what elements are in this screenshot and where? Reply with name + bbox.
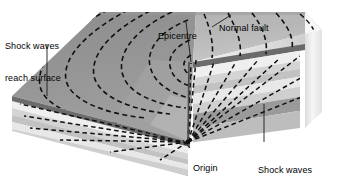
label-epicentre: Epicentre xyxy=(158,10,197,63)
label-line: Epicentre xyxy=(158,31,197,42)
label-line: Normal fault xyxy=(219,23,269,34)
label-line: Shock waves xyxy=(258,165,321,176)
label-line: Origin xyxy=(193,163,226,174)
label-normal-fault: Normal fault xyxy=(219,2,269,55)
block-right-side-face xyxy=(305,30,322,128)
fault-plane-line xyxy=(188,62,189,143)
back-edge-highlight xyxy=(100,12,305,15)
label-origin-or-focus: Origin or focus xyxy=(193,142,226,181)
figure-canvas: Shock waves reach surface Epicentre Norm… xyxy=(0,0,351,181)
label-line: reach surface xyxy=(5,73,61,84)
label-shock-waves-travel-outwards: Shock waves travel outwards xyxy=(258,144,321,181)
label-line: Shock waves xyxy=(5,41,61,52)
label-shock-waves-reach-surface: Shock waves reach surface xyxy=(5,20,61,104)
